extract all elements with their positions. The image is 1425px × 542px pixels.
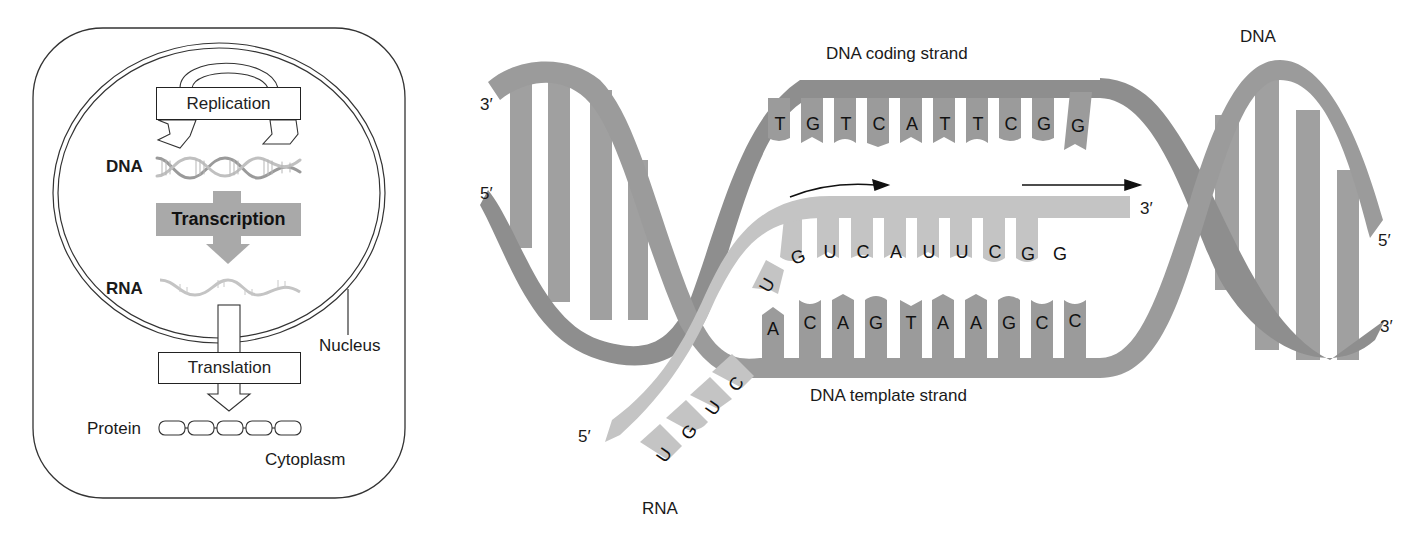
template-base: A [763, 320, 783, 338]
coding-base: G [1034, 115, 1054, 133]
dna-helix-label: DNA [1240, 28, 1276, 45]
coding-base: G [803, 115, 823, 133]
nucleus-label: Nucleus [319, 337, 380, 354]
template-strand-label: DNA template strand [810, 387, 967, 404]
rna-transcript-label: RNA [642, 500, 678, 517]
protein-chain-icon [159, 421, 301, 435]
coding-base: C [1001, 115, 1021, 133]
mini-dna-helix-icon [157, 158, 300, 178]
coding-base: T [836, 115, 856, 133]
coding-base: T [935, 115, 955, 133]
rna-base: C [853, 243, 873, 261]
template-base: C [1065, 312, 1085, 330]
rna-base: C [985, 243, 1005, 261]
mini-rna-strand-icon [160, 279, 300, 296]
transcription-label: Transcription [171, 209, 285, 230]
rna-base: G [1018, 245, 1038, 263]
left-bottom-end-label: 5′ [480, 185, 493, 202]
template-base: A [833, 314, 853, 332]
template-base: C [800, 314, 820, 332]
rna-3prime-end-label: 3′ [1140, 200, 1153, 217]
translation-label: Translation [188, 358, 271, 378]
coding-base: G [1068, 117, 1088, 135]
template-base: A [933, 314, 953, 332]
rna-base: G [1050, 245, 1070, 263]
dna-label: DNA [106, 158, 143, 175]
template-base: G [866, 314, 886, 332]
rna-export-arrow-icon [218, 305, 240, 353]
transcription-box: Transcription [156, 203, 301, 236]
translation-arrow-icon [208, 383, 250, 411]
replication-box: Replication [156, 87, 301, 120]
template-base: G [999, 314, 1019, 332]
right-top-end-label: 5′ [1378, 232, 1391, 249]
left-top-end-label: 3′ [480, 96, 493, 113]
rna-base: U [820, 243, 840, 261]
rna-base: U [952, 243, 972, 261]
rna-label: RNA [106, 280, 143, 297]
overview-graphics [0, 0, 1425, 542]
template-base: T [901, 314, 921, 332]
rna-5prime-end-label: 5′ [578, 428, 591, 445]
template-base: A [966, 314, 986, 332]
replication-label: Replication [186, 94, 270, 114]
protein-label: Protein [87, 420, 141, 437]
right-bottom-end-label: 3′ [1380, 318, 1393, 335]
right-dna-double-helix [1100, 60, 1385, 378]
translation-box: Translation [158, 352, 301, 384]
transcription-direction-arrows [790, 180, 1140, 197]
template-base: C [1032, 314, 1052, 332]
rna-base: U [919, 243, 939, 261]
coding-base: T [968, 115, 988, 133]
coding-strand-label: DNA coding strand [826, 45, 968, 62]
cytoplasm-label: Cytoplasm [265, 451, 345, 468]
coding-base: T [770, 115, 790, 133]
coding-base: A [902, 115, 922, 133]
rna-base: A [886, 243, 906, 261]
coding-base: C [869, 115, 889, 133]
